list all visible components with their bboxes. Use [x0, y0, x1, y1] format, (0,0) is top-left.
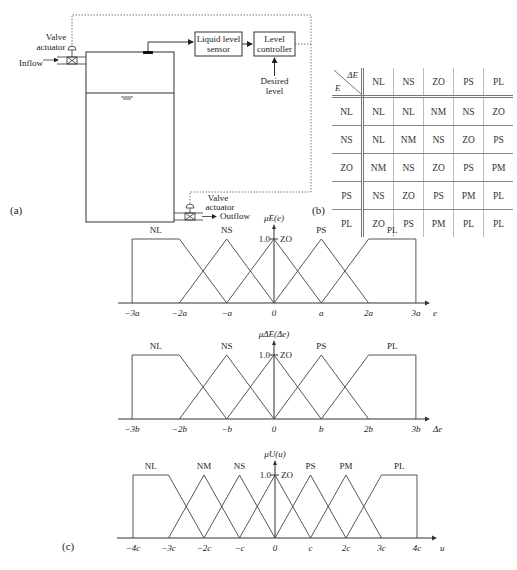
- x-tick-label: 3c: [376, 543, 386, 553]
- x-tick-label: b: [319, 424, 324, 434]
- y-axis-label: μU(u): [263, 449, 286, 459]
- set-label: PS: [305, 461, 315, 471]
- set-label: ZO: [280, 234, 292, 244]
- membership-nl: [133, 475, 204, 538]
- set-label: PS: [316, 225, 326, 235]
- set-label: ZO: [280, 350, 292, 360]
- x-tick-label: 2b: [364, 424, 374, 434]
- x-tick-label: 0: [272, 308, 277, 318]
- set-label: NS: [221, 225, 233, 235]
- x-axis-arrow-icon: [432, 536, 437, 541]
- x-tick-label: −2b: [172, 424, 188, 434]
- x-tick-label: 3a: [410, 308, 421, 318]
- x-axis-arrow-icon: [425, 417, 430, 422]
- membership-ps: [275, 475, 346, 538]
- set-label: NM: [197, 461, 212, 471]
- x-tick-label: 3b: [410, 424, 421, 434]
- y-axis-arrow-icon: [273, 460, 277, 465]
- x-tick-label: a: [319, 308, 324, 318]
- x-tick-label: −2a: [172, 308, 188, 318]
- membership-nl: [132, 355, 227, 419]
- x-tick-label: −b: [221, 424, 232, 434]
- membership-pm: [311, 475, 382, 538]
- y-axis-arrow-icon: [272, 224, 276, 229]
- x-tick-label: 0: [273, 543, 278, 553]
- x-tick-label: −3a: [125, 308, 141, 318]
- x-tick-label: −2c: [197, 543, 212, 553]
- set-label: PL: [387, 225, 398, 235]
- peak-label: 1.0: [259, 350, 271, 360]
- set-label: PM: [339, 461, 352, 471]
- membership-pl: [346, 475, 417, 538]
- membership-pl: [321, 355, 416, 419]
- x-tick-label: c: [309, 543, 313, 553]
- membership-nm: [169, 475, 240, 538]
- set-label: PS: [316, 341, 326, 351]
- membership-nl: [132, 239, 227, 303]
- set-label: NL: [150, 225, 162, 235]
- x-axis-label: u: [440, 543, 445, 553]
- set-label: NS: [221, 341, 233, 351]
- set-label: NS: [234, 461, 246, 471]
- x-tick-label: 2c: [342, 543, 351, 553]
- membership-ns: [179, 355, 274, 419]
- membership-ps: [274, 239, 369, 303]
- peak-label: 1.0: [260, 470, 272, 480]
- x-tick-label: 4c: [413, 543, 422, 553]
- membership-pl: [321, 239, 416, 303]
- set-label: NL: [150, 341, 162, 351]
- y-axis-label: μE(e): [263, 213, 284, 223]
- x-tick-label: −a: [221, 308, 232, 318]
- y-axis-label: μΔE(Δe): [258, 329, 290, 339]
- x-tick-label: −3c: [161, 543, 176, 553]
- peak-label: 1.0: [259, 234, 271, 244]
- x-axis-arrow-icon: [425, 301, 430, 306]
- set-label: PL: [387, 341, 398, 351]
- x-tick-label: 2a: [364, 308, 374, 318]
- set-label: PL: [394, 461, 405, 471]
- membership-charts: μE(e)1.0NLNSZOPSPL−3a−2a−a0a2a3aeμΔE(Δe)…: [0, 0, 517, 570]
- x-tick-label: 0: [272, 424, 277, 434]
- x-tick-label: −c: [234, 543, 244, 553]
- set-label: NL: [145, 461, 157, 471]
- y-axis-arrow-icon: [272, 340, 276, 345]
- x-axis-label: Δe: [432, 424, 442, 434]
- panel-label-c: (c): [62, 540, 74, 552]
- x-axis-label: e: [433, 308, 437, 318]
- membership-ns: [179, 239, 274, 303]
- x-tick-label: −4c: [126, 543, 141, 553]
- set-label: ZO: [281, 470, 293, 480]
- membership-ns: [204, 475, 275, 538]
- x-tick-label: −3b: [125, 424, 141, 434]
- membership-ps: [274, 355, 369, 419]
